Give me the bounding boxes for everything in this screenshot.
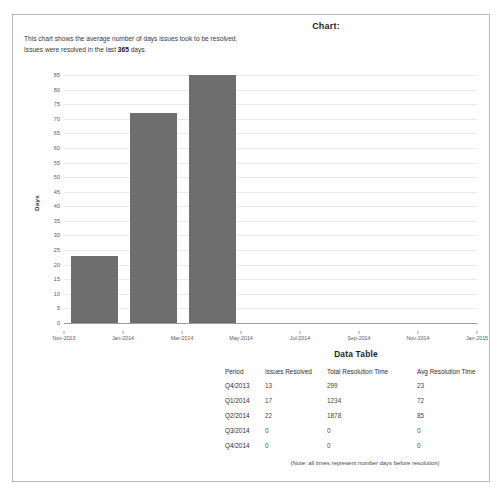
table-row: Q2/201422187885 (225, 412, 487, 427)
x-axis-tickmark-0 (64, 331, 65, 334)
x-axis-tickmark-6 (418, 331, 419, 334)
cell-issues-resolved: 0 (265, 427, 327, 442)
gridline-35: 35 (64, 221, 477, 222)
data-table-section: Data Table Period Issues Resolved Total … (225, 349, 487, 466)
x-axis-tick-May-2014: May-2014 (229, 335, 253, 341)
y-axis-tick-15: 15 (54, 276, 60, 282)
data-table-note: (Note: all times represent number days b… (225, 460, 487, 466)
y-axis-tick-45: 45 (54, 189, 60, 195)
cell-total-resolution-time: 1878 (327, 412, 417, 427)
x-axis-tick-Mar-2014: Mar-2014 (171, 335, 194, 341)
x-axis-tickmark-5 (359, 331, 360, 334)
y-axis-tick-40: 40 (54, 203, 60, 209)
cell-avg-resolution-time: 23 (417, 382, 487, 397)
x-axis-tickmark-2 (182, 331, 183, 334)
plot-area: 0510152025303540455055606570758085 (64, 75, 477, 323)
cell-issues-resolved: 0 (265, 442, 327, 457)
y-axis-tick-55: 55 (54, 160, 60, 166)
gridline-55: 55 (64, 163, 477, 164)
cell-avg-resolution-time: 72 (417, 397, 487, 412)
y-axis-tick-70: 70 (54, 116, 60, 122)
y-axis-tick-5: 5 (57, 305, 60, 311)
gridline-40: 40 (64, 206, 477, 207)
x-axis: Nov-2013Jan-2014Mar-2014May-2014Jul-2014… (64, 335, 477, 349)
description-suffix: days. (129, 46, 147, 53)
gridline-5: 5 (64, 308, 477, 309)
data-table: Period Issues Resolved Total Resolution … (225, 368, 487, 457)
description-days-value: 365 (118, 46, 129, 53)
gridline-10: 10 (64, 294, 477, 295)
cell-total-resolution-time: 299 (327, 382, 417, 397)
cell-total-resolution-time: 0 (327, 442, 417, 457)
y-axis-tick-30: 30 (54, 232, 60, 238)
y-axis-tick-0: 0 (57, 320, 60, 326)
gridline-65: 65 (64, 133, 477, 134)
gridline-80: 80 (64, 90, 477, 91)
y-axis-tick-80: 80 (54, 87, 60, 93)
gridline-25: 25 (64, 250, 477, 251)
x-axis-tick-Nov-2013: Nov-2013 (53, 335, 76, 341)
gridline-60: 60 (64, 148, 477, 149)
y-axis-tick-75: 75 (54, 101, 60, 107)
column-header-avg: Avg Resolution Time (417, 368, 487, 382)
chart-description: This chart shows the average number of d… (24, 34, 237, 55)
cell-total-resolution-time: 0 (327, 427, 417, 442)
x-axis-tick-Jul-2014: Jul-2014 (290, 335, 310, 341)
y-axis-tick-20: 20 (54, 262, 60, 268)
y-axis-tick-10: 10 (54, 291, 60, 297)
x-axis-tick-Jan-2014: Jan-2014 (112, 335, 134, 341)
gridline-70: 70 (64, 119, 477, 120)
cell-total-resolution-time: 1234 (327, 397, 417, 412)
x-axis-tickmark-1 (123, 331, 124, 334)
gridline-30: 30 (64, 235, 477, 236)
cell-period: Q2/2014 (225, 412, 265, 427)
table-row: Q3/2014000 (225, 427, 487, 442)
bar-chart: Days 0510152025303540455055606570758085 … (24, 63, 480, 343)
data-table-title: Data Table (225, 349, 487, 359)
y-axis-tick-60: 60 (54, 145, 60, 151)
x-axis-tick-Sep-2014: Sep-2014 (348, 335, 371, 341)
cell-avg-resolution-time: 0 (417, 427, 487, 442)
table-body: Q4/20131329923Q1/201417123472Q2/20142218… (225, 382, 487, 457)
column-header-total: Total Resolution Time (327, 368, 417, 382)
cell-issues-resolved: 17 (265, 397, 327, 412)
gridline-20: 20 (64, 265, 477, 266)
description-line-1: This chart shows the average number of d… (24, 34, 237, 45)
table-row: Q1/201417123472 (225, 397, 487, 412)
bar-Q2-2014[interactable] (189, 75, 236, 323)
table-row: Q4/2014000 (225, 442, 487, 457)
gridline-85: 85 (64, 75, 477, 76)
x-axis-tickmark-3 (241, 331, 242, 334)
y-axis-tick-35: 35 (54, 218, 60, 224)
description-line-2: Issues were resolved in the last 365 day… (24, 45, 237, 56)
y-axis-tick-85: 85 (54, 72, 60, 78)
y-axis-tick-25: 25 (54, 247, 60, 253)
report-page: Chart: This chart shows the average numb… (12, 14, 490, 482)
x-axis-tick-Nov-2014: Nov-2014 (407, 335, 430, 341)
cell-period: Q1/2014 (225, 397, 265, 412)
y-axis-label: Days (33, 195, 40, 211)
gridline-50: 50 (64, 177, 477, 178)
gridline-75: 75 (64, 104, 477, 105)
description-prefix: Issues were resolved in the last (24, 46, 118, 53)
bar-Q4-2013[interactable] (71, 256, 118, 323)
table-header: Period Issues Resolved Total Resolution … (225, 368, 487, 382)
page-title: Chart: (13, 21, 489, 31)
column-header-issues: Issues Resolved (265, 368, 327, 382)
cell-issues-resolved: 22 (265, 412, 327, 427)
column-header-period: Period (225, 368, 265, 382)
gridline-15: 15 (64, 279, 477, 280)
table-row: Q4/20131329923 (225, 382, 487, 397)
table-header-row: Period Issues Resolved Total Resolution … (225, 368, 487, 382)
cell-issues-resolved: 13 (265, 382, 327, 397)
gridline-0: 0 (64, 323, 477, 324)
x-axis-tick-Jan-2015: Jan-2015 (466, 335, 488, 341)
y-axis-tick-65: 65 (54, 130, 60, 136)
bar-Q1-2014[interactable] (130, 113, 177, 323)
x-axis-tickmark-4 (300, 331, 301, 334)
cell-avg-resolution-time: 0 (417, 442, 487, 457)
y-axis-tick-50: 50 (54, 174, 60, 180)
cell-period: Q4/2013 (225, 382, 265, 397)
cell-avg-resolution-time: 85 (417, 412, 487, 427)
cell-period: Q4/2014 (225, 442, 265, 457)
